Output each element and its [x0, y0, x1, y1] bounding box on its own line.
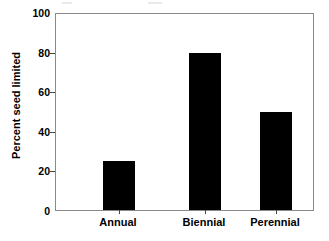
- bar-biennial: [189, 53, 221, 210]
- x-label-annual: Annual: [99, 216, 136, 228]
- x-label-biennial: Biennial: [183, 216, 226, 228]
- x-axis-category-labels: Annual Biennial Perennial: [55, 216, 314, 236]
- y-tick-label: 20: [22, 166, 50, 177]
- y-tick-label: 60: [22, 87, 50, 98]
- x-label-perennial: Perennial: [250, 216, 300, 228]
- plot-area: [55, 13, 314, 211]
- bars-layer: [56, 14, 313, 210]
- bar-annual: [103, 161, 135, 210]
- y-tick-label: 0: [22, 206, 50, 217]
- y-tick-label: 40: [22, 127, 50, 138]
- bar-perennial: [260, 112, 292, 210]
- y-tick-label: 80: [22, 47, 50, 58]
- scan-artifact: [148, 2, 162, 4]
- x-tick-mark: [205, 210, 206, 214]
- y-tick-label: 100: [22, 8, 50, 19]
- bar-chart-figure: Percent seed limited 100 80 60 40 20 0 A…: [0, 0, 329, 241]
- scan-artifact: [62, 2, 72, 4]
- x-tick-mark: [119, 210, 120, 214]
- x-tick-mark: [276, 210, 277, 214]
- y-axis-tick-labels: 100 80 60 40 20 0: [22, 0, 50, 241]
